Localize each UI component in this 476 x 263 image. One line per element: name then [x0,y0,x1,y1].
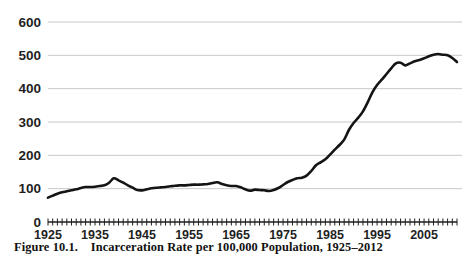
x-tick-label: 2005 [410,228,438,240]
y-tick-label: 200 [18,148,41,163]
data-line-incarceration-rate [48,54,457,198]
x-tick-label: 1925 [34,228,62,240]
x-tick-label: 1995 [363,228,391,240]
figure-incarceration-rate: 0100200300400500600 19251935194519551965… [0,0,476,263]
y-axis-tick-labels: 0100200300400500600 [18,15,41,230]
figure-caption: Figure 10.1. Incarceration Rate per 100,… [0,240,476,255]
x-axis-tick-labels: 192519351945195519651975198519952005 [34,228,438,240]
x-tick-label: 1955 [175,228,203,240]
y-tick-label: 400 [18,81,41,96]
chart-plot-area: 0100200300400500600 19251935194519551965… [0,0,476,240]
x-tick-label: 1935 [81,228,109,240]
y-tick-label: 100 [18,181,41,196]
gridlines [48,22,462,189]
y-tick-label: 600 [18,15,41,30]
x-tick-label: 1945 [128,228,156,240]
x-tick-label: 1975 [269,228,297,240]
x-axis [48,219,457,226]
x-tick-label: 1985 [316,228,344,240]
x-tick-label: 1965 [222,228,250,240]
y-tick-label: 500 [18,48,41,63]
y-tick-label: 300 [18,115,41,130]
